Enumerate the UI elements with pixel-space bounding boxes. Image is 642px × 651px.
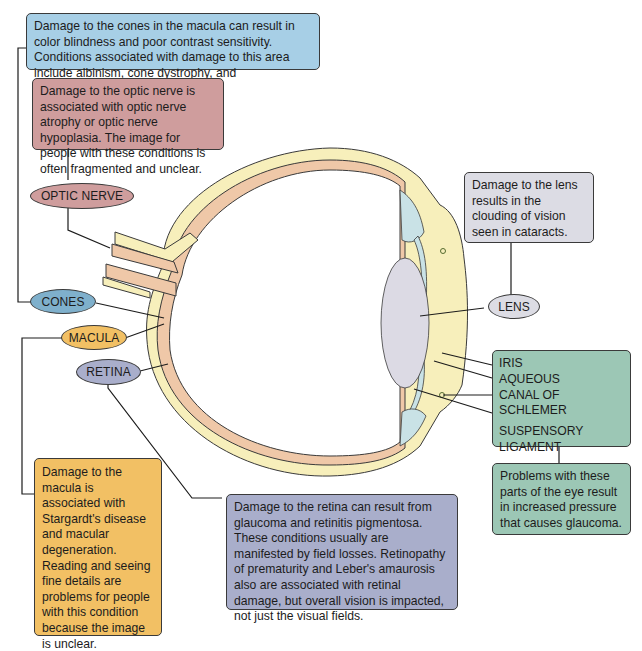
optic-nerve-callout: Damage to the optic nerve is associated … bbox=[32, 78, 224, 150]
lens-label: LENS bbox=[488, 294, 540, 319]
macula-callout-text: Damage to the macula is associated with … bbox=[42, 465, 154, 651]
aqueous-label: AQUEOUS bbox=[499, 372, 624, 388]
suspensory-label: SUSPENSORY bbox=[499, 424, 624, 440]
optic-nerve-label: OPTIC NERVE bbox=[30, 183, 134, 209]
cones-label: CONES bbox=[30, 289, 96, 314]
iris-label: IRIS bbox=[499, 356, 624, 372]
lens-callout-text: Damage to the lens results in the cloudi… bbox=[472, 178, 586, 240]
ligament-label: LIGAMENT bbox=[499, 440, 624, 456]
macula-label: MACULA bbox=[61, 325, 127, 350]
retina-callout: Damage to the retina can result from gla… bbox=[226, 494, 458, 610]
cones-callout: Damage to the cones in the macula can re… bbox=[26, 13, 320, 70]
macula-label-text: MACULA bbox=[69, 331, 120, 345]
canal-of-schlemer-label: CANAL OF SCHLEMER bbox=[499, 388, 624, 420]
front-parts-box: IRIS AQUEOUS CANAL OF SCHLEMER SUSPENSOR… bbox=[492, 350, 631, 447]
lens bbox=[381, 258, 429, 388]
retina-label: RETINA bbox=[76, 359, 141, 385]
optic-nerve-callout-text: Damage to the optic nerve is associated … bbox=[40, 84, 216, 178]
optic-nerve-label-text: OPTIC NERVE bbox=[41, 189, 123, 203]
lens-label-text: LENS bbox=[498, 300, 530, 314]
retina-label-text: RETINA bbox=[86, 365, 131, 379]
lens-callout: Damage to the lens results in the cloudi… bbox=[464, 172, 594, 243]
cones-label-text: CONES bbox=[41, 295, 84, 309]
macula-callout: Damage to the macula is associated with … bbox=[34, 458, 162, 636]
glaucoma-callout-text: Problems with these parts of the eye res… bbox=[500, 469, 623, 531]
retina-callout-text: Damage to the retina can result from gla… bbox=[234, 500, 450, 625]
glaucoma-callout: Problems with these parts of the eye res… bbox=[492, 463, 631, 535]
